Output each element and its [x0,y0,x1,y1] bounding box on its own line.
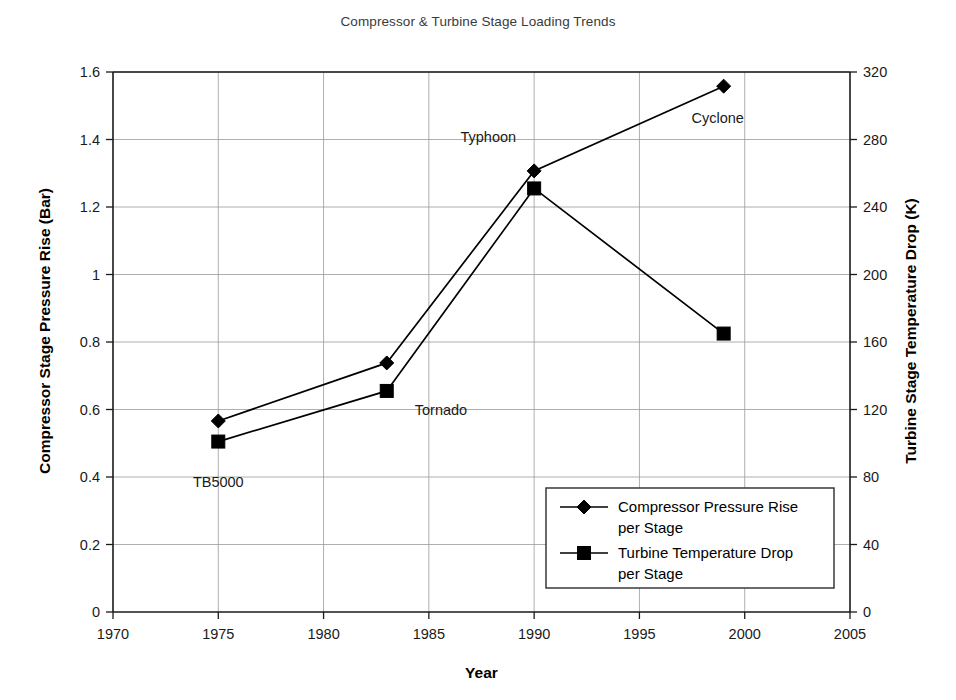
legend-label-line2: per Stage [618,565,683,582]
y-axis-left-ticklabel: 1.4 [80,132,100,148]
point-annotations: TB5000TornadoTyphoonCyclone [193,110,744,490]
marker-diamond [380,356,394,370]
y-axis-left-ticklabel: 1.2 [80,199,100,215]
legend-label-line1: Compressor Pressure Rise [618,498,798,515]
y-axis-right-ticklabel: 200 [863,267,887,283]
x-axis-ticklabel: 2005 [834,626,866,642]
y-axis-right-ticklabel: 40 [863,537,879,553]
annotation-label: TB5000 [193,474,244,490]
marker-diamond [527,164,541,178]
y-axis-right-ticklabel: 120 [863,402,887,418]
y-axis-right-ticklabel: 0 [863,604,871,620]
marker-square [717,327,730,340]
x-axis-ticklabel: 1995 [623,626,655,642]
y-axis-left-ticklabels: 00.20.40.60.811.21.41.6 [80,64,100,620]
x-axis-ticklabel: 1970 [97,626,129,642]
legend-label-line1: Turbine Temperature Drop [618,544,793,561]
y-axis-left-ticklabel: 0.8 [80,334,100,350]
y-axis-left-ticklabel: 1 [92,267,100,283]
y-axis-right-ticklabel: 160 [863,334,887,350]
annotation-label: Cyclone [691,110,743,126]
marker-diamond [717,79,731,93]
x-axis-ticklabels: 19701975198019851990199520002005 [97,626,866,642]
y-axis-left-ticklabel: 1.6 [80,64,100,80]
marker-square [380,384,393,397]
series-line [218,188,723,441]
y-axis-right-ticklabel: 280 [863,132,887,148]
chart-legend[interactable]: Compressor Pressure Riseper StageTurbine… [546,488,834,588]
annotation-label: Tornado [415,402,467,418]
marker-diamond [211,414,225,428]
y-axis-right-ticklabel: 80 [863,469,879,485]
x-axis-ticklabel: 1975 [202,626,234,642]
y-axis-right-ticklabels: 04080120160200240280320 [863,64,887,620]
y-axis-right-ticklabel: 320 [863,64,887,80]
y-axis-left-ticklabel: 0.6 [80,402,100,418]
x-axis-ticklabel: 1985 [413,626,445,642]
x-axis-ticklabel: 1980 [307,626,339,642]
y-axis-left-ticklabel: 0 [92,604,100,620]
x-axis-ticklabel: 2000 [729,626,761,642]
marker-square [212,435,225,448]
plot-area: 00.20.40.60.811.21.41.6 0408012016020024… [0,0,956,700]
marker-square [578,547,591,560]
x-axis-ticklabel: 1990 [518,626,550,642]
chart-figure: Compressor & Turbine Stage Loading Trend… [0,0,956,700]
annotation-label: Typhoon [461,129,517,145]
y-axis-left-ticklabel: 0.2 [80,537,100,553]
legend-label-line2: per Stage [618,519,683,536]
marker-square [528,182,541,195]
y-axis-right-ticklabel: 240 [863,199,887,215]
y-axis-left-ticklabel: 0.4 [80,469,100,485]
series-2 [212,182,730,448]
